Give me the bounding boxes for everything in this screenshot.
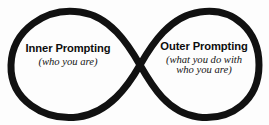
inner-prompting-title: Inner Prompting	[14, 42, 122, 55]
inner-prompting-subtitle: (who you are)	[14, 56, 122, 68]
infinity-diagram: Inner Prompting (who you are) Outer Prom…	[0, 0, 269, 125]
inner-prompting-label-group: Inner Prompting (who you are)	[14, 42, 122, 67]
outer-prompting-subtitle-line-2: who you are)	[150, 64, 258, 76]
outer-prompting-title: Outer Prompting	[150, 40, 258, 53]
outer-prompting-label-group: Outer Prompting (what you do with who yo…	[150, 40, 258, 76]
